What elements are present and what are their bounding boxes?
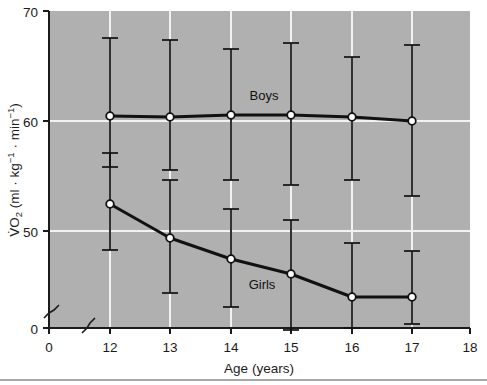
data-point-marker	[106, 200, 114, 208]
data-point-marker	[287, 270, 295, 278]
x-tick-label-0: 0	[45, 340, 53, 355]
vo2-age-line-chart: 70 60 50 0 0 12 13 14 15 16 17 18 Age (y…	[0, 0, 487, 385]
y-tick-label-0: 0	[30, 322, 38, 337]
x-tick-label-16: 16	[344, 340, 359, 355]
data-point-marker	[106, 112, 114, 120]
y-title-v: V	[7, 228, 22, 237]
data-point-marker	[348, 293, 356, 301]
x-axis-title: Age (years)	[224, 361, 294, 376]
x-tick-label-13: 13	[162, 340, 177, 355]
y-title-rest-open: (ml · kg	[7, 163, 22, 212]
y-title-o: O	[7, 217, 22, 228]
x-tick-label-15: 15	[283, 340, 298, 355]
x-tick-label-14: 14	[223, 340, 239, 355]
y-title-sup-minus1-b: −1	[5, 108, 16, 119]
data-point-marker	[227, 111, 235, 119]
data-point-marker	[287, 111, 295, 119]
y-title-sup-minus1-a: −1	[5, 152, 16, 163]
data-point-marker	[166, 234, 174, 242]
data-point-marker	[408, 117, 416, 125]
y-title-mid: · min	[7, 119, 22, 153]
y-title-close: )	[7, 103, 22, 108]
x-tick-label-18: 18	[462, 340, 477, 355]
x-tick-label-12: 12	[102, 340, 117, 355]
data-point-marker	[408, 293, 416, 301]
y-tick-label-70: 70	[23, 5, 38, 20]
y-tick-label-60: 60	[23, 115, 38, 130]
figure-container: 70 60 50 0 0 12 13 14 15 16 17 18 Age (y…	[0, 0, 487, 385]
x-tick-label-17: 17	[404, 340, 419, 355]
series-label-boys: Boys	[250, 88, 279, 103]
data-point-marker	[166, 113, 174, 121]
data-point-marker	[227, 255, 235, 263]
series-label-girls: Girls	[249, 277, 276, 292]
data-point-marker	[348, 113, 356, 121]
y-tick-label-50: 50	[23, 225, 38, 240]
